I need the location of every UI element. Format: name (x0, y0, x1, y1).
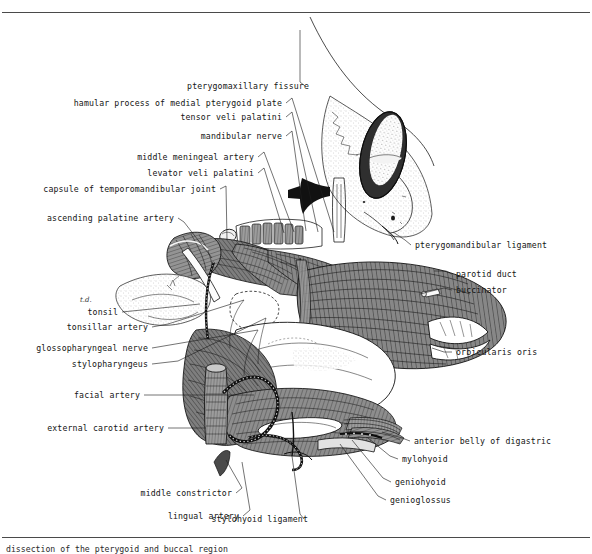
label-tonsil: tonsil (88, 307, 118, 317)
label-hamular-process-of-medial-pterygoid-plate: hamular process of medial pterygoid plat… (74, 98, 282, 108)
label-stylopharyngeus: stylopharyngeus (72, 359, 148, 369)
label-ascending-palatine-artery: ascending palatine artery (47, 213, 174, 223)
figure-page: hamular process of medial pterygoid plat… (0, 0, 592, 554)
label-middle-constrictor: middle constrictor (141, 488, 232, 498)
label-tensor-veli-palatini: tensor veli palatini (180, 112, 282, 122)
label-middle-meningeal-artery: middle meningeal artery (137, 152, 254, 162)
skull-outline (288, 17, 434, 242)
label-levator-veli-palatini: levator veli palatini (147, 168, 254, 178)
label-anterior-belly-of-digastric: anterior belly of digastric (414, 436, 551, 446)
label-mandibular-nerve: mandibular nerve (201, 131, 282, 141)
label-capsule-of-temporomandibular-joint: capsule of temporomandibular joint (43, 184, 216, 194)
label-parotid-duct: parotid duct (456, 269, 517, 279)
label-stylohyoid-ligament: stylohyoid ligament (211, 514, 308, 524)
label-tonsillar-artery: tonsillar artery (67, 322, 148, 332)
figure-caption: dissection of the pterygoid and buccal r… (6, 544, 228, 554)
leader-line-pterygomaxillary-fissure (300, 30, 305, 86)
label-pterygomaxillary-fissure: pterygomaxillary fissure (187, 81, 309, 91)
label-pterygomandibular-ligament: pterygomandibular ligament (415, 240, 547, 250)
label-external-carotid-artery: external carotid artery (47, 423, 164, 433)
label-geniogloss: genioglossus (390, 495, 451, 505)
label-facial-artery: facial artery (74, 390, 140, 400)
anatomical-figure: hamular process of medial pterygoid plat… (0, 0, 592, 554)
leader-line-lingual-artery (242, 462, 250, 516)
handwritten-note: t.d. (80, 296, 92, 304)
label-glossopharyngeal-nerve: glossopharyngeal nerve (36, 343, 148, 353)
label-geniohyoid: geniohyoid (395, 477, 446, 487)
label-mylohyoid: mylohyoid (402, 454, 448, 464)
label-orbicularis-oris: orbicularis oris (456, 347, 537, 357)
label-buccinator: buccinator (456, 285, 507, 295)
